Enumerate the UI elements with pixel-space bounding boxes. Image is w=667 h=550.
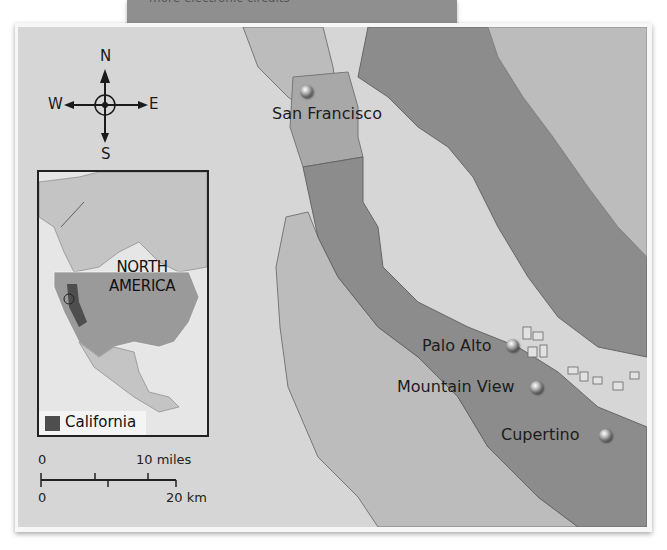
city-label-san-francisco: San Francisco — [272, 104, 382, 123]
compass-rose: N S W E — [48, 47, 158, 162]
bay-area-map: N S W E San Francisco Palo Alto Mountain… — [18, 27, 647, 527]
north-america-label-line1: NORTH — [109, 258, 175, 277]
scale-bar: 0 10 miles 0 20 km — [38, 452, 228, 512]
north-america-terrain — [39, 172, 207, 435]
scale-miles-end: 10 miles — [136, 452, 191, 467]
scale-km-start: 0 — [38, 490, 46, 505]
north-america-inset-map: NORTH AMERICA California — [37, 170, 209, 437]
inset-legend: California — [39, 411, 146, 435]
north-america-label: NORTH AMERICA — [109, 258, 175, 296]
north-america-label-line2: AMERICA — [109, 277, 175, 296]
san-francisco-pin-icon[interactable] — [300, 85, 313, 98]
california-swatch-icon — [45, 416, 60, 431]
compass-west-label: W — [48, 95, 63, 113]
legend-label-california: California — [65, 413, 136, 431]
city-label-palo-alto: Palo Alto — [422, 336, 492, 355]
mountain-view-pin-icon[interactable] — [530, 381, 543, 394]
compass-south-label: S — [101, 145, 111, 163]
scale-km-end: 20 km — [166, 490, 207, 505]
scale-bar-line — [40, 470, 190, 490]
compass-north-label: N — [100, 47, 111, 65]
scale-miles-start: 0 — [38, 452, 46, 467]
top-caption-text: more electronic circuits — [149, 0, 290, 5]
map-frame: N S W E San Francisco Palo Alto Mountain… — [15, 23, 652, 532]
top-caption-box: more electronic circuits — [127, 0, 457, 24]
cupertino-pin-icon[interactable] — [599, 429, 612, 442]
city-label-mountain-view: Mountain View — [397, 377, 515, 396]
compass-east-label: E — [149, 95, 158, 113]
palo-alto-pin-icon[interactable] — [506, 339, 519, 352]
city-label-cupertino: Cupertino — [501, 425, 580, 444]
